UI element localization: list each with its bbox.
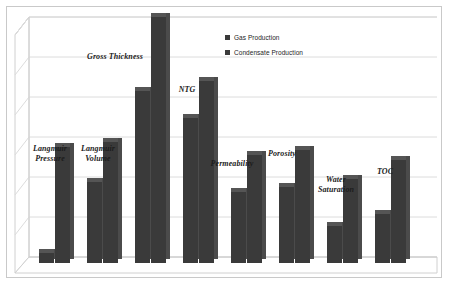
category-label-ntg: NTG	[167, 85, 207, 95]
bar-group-toc	[375, 17, 415, 263]
bar-gas-gross-thickness[interactable]	[135, 91, 150, 263]
bar-gas-langmuir-pressure[interactable]	[39, 253, 54, 263]
bar-gas-langmuir-volume[interactable]	[87, 182, 102, 263]
bar-front	[295, 150, 310, 263]
bar-top	[327, 222, 342, 226]
bar-top	[183, 114, 198, 118]
bar-front	[87, 182, 102, 263]
bar-top	[279, 183, 294, 187]
bar-gas-toc[interactable]	[375, 214, 390, 263]
bar-front	[135, 91, 150, 263]
category-label-permeability: Permeability	[198, 159, 266, 169]
bar-front	[55, 147, 70, 263]
category-label-langmuir-volume: Langmuir Volume	[69, 144, 127, 163]
bar-condensate-porosity[interactable]	[295, 150, 310, 263]
legend-label: Gas Production	[234, 34, 280, 41]
bar-top	[39, 249, 54, 253]
legend-swatch-icon	[225, 50, 230, 55]
category-label-water-saturation: Water Saturation	[307, 175, 365, 194]
bar-front	[375, 214, 390, 263]
bar-front	[279, 187, 294, 263]
category-label-toc: TOC	[365, 167, 405, 177]
bar-top	[199, 77, 214, 81]
bar-gas-permeability[interactable]	[231, 192, 246, 263]
bar-front	[199, 81, 214, 263]
chart-frame: Langmuir Pressure Langmuir Volume Gross …	[6, 6, 442, 278]
bar-front	[183, 118, 198, 263]
bar-side	[310, 146, 314, 259]
bar-top	[87, 178, 102, 182]
bar-front	[247, 155, 262, 263]
bar-top	[135, 87, 150, 91]
chart-screenshot: Langmuir Pressure Langmuir Volume Gross …	[0, 0, 449, 292]
bar-gas-ntg[interactable]	[183, 118, 198, 263]
legend-label: Condensate Production	[234, 49, 303, 56]
bar-top	[103, 138, 118, 142]
chart-legend: Gas Production Condensate Production	[225, 33, 303, 63]
bar-front	[231, 192, 246, 263]
bar-group-ntg	[183, 17, 223, 263]
bar-top	[391, 156, 406, 160]
bar-condensate-ntg[interactable]	[199, 81, 214, 263]
bar-gas-water-saturation[interactable]	[327, 226, 342, 263]
legend-item-gas-production[interactable]: Gas Production	[225, 33, 303, 42]
bar-condensate-permeability[interactable]	[247, 155, 262, 263]
bar-front	[39, 253, 54, 263]
bar-top	[151, 13, 166, 17]
category-label-porosity: Porosity	[252, 149, 312, 159]
bar-top	[231, 188, 246, 192]
bar-condensate-langmuir-pressure[interactable]	[55, 147, 70, 263]
legend-item-condensate-production[interactable]: Condensate Production	[225, 48, 303, 57]
legend-swatch-icon	[225, 35, 230, 40]
bar-group-water-saturation	[327, 17, 367, 263]
bar-side	[406, 156, 410, 259]
category-label-gross-thickness: Gross Thickness	[69, 52, 161, 62]
bar-front	[327, 226, 342, 263]
bar-side	[166, 13, 170, 259]
bar-top	[375, 210, 390, 214]
bar-gas-porosity[interactable]	[279, 187, 294, 263]
